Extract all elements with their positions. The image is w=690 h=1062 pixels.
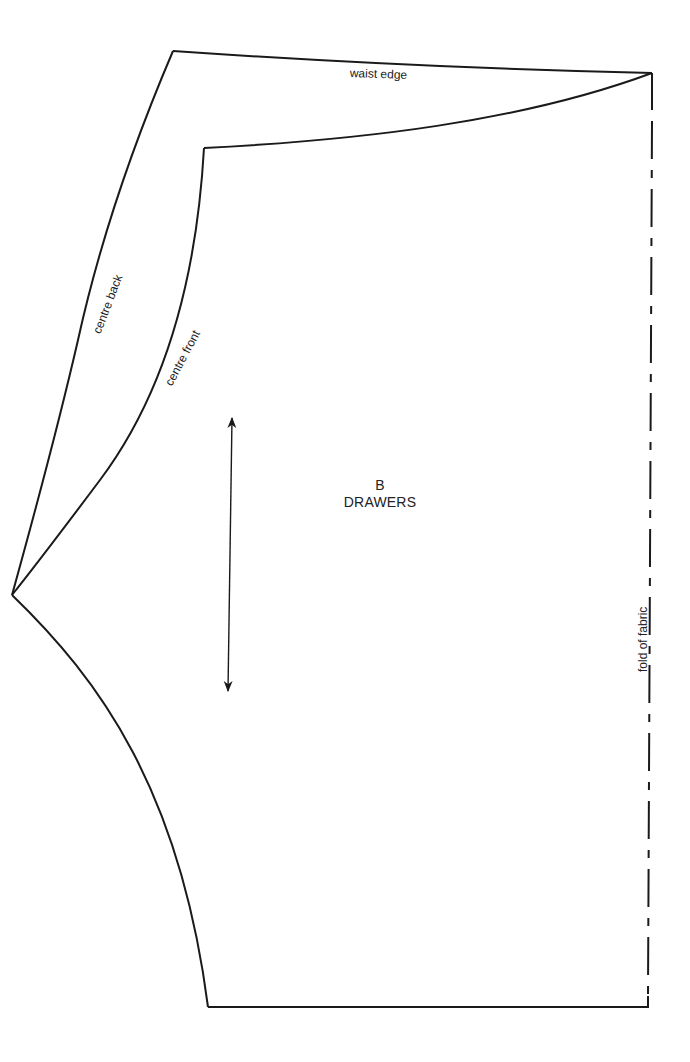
- waist-edge-label: waist edge: [350, 67, 408, 81]
- pattern-drawing: [0, 0, 690, 1062]
- grainline-arrow-icon: [228, 418, 232, 691]
- fold-line: [648, 121, 652, 996]
- fold-of-fabric-label: fold of fabric: [637, 607, 649, 672]
- pattern-piece-title: B DRAWERS: [340, 477, 420, 511]
- piece-name: DRAWERS: [340, 494, 420, 511]
- front-waist-line: [204, 73, 652, 148]
- leg-curve-line: [12, 595, 208, 1007]
- hem-line: [208, 996, 648, 1007]
- waist-edge-line: [173, 51, 652, 73]
- piece-letter: B: [340, 477, 420, 494]
- pattern-sheet: waist edge centre back centre front fold…: [0, 0, 690, 1062]
